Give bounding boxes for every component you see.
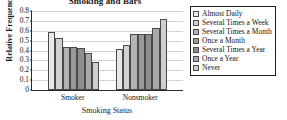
bar [130,34,137,90]
bar [85,53,92,90]
bar [138,34,145,90]
legend-swatch-icon [193,11,199,17]
legend-label: Several Times a Month [202,28,272,36]
bar [145,34,152,90]
legend-item: Several Times a Year [193,45,272,54]
y-tick-label: 0.3 [20,57,32,65]
legend-label: Never [202,64,220,72]
bar [77,48,84,90]
legend-swatch-icon [193,20,199,26]
legend-swatch-icon [193,56,199,62]
x-group-label: Nonsmoker [115,93,167,102]
y-tick-label: 0 [25,86,32,94]
bar [92,62,99,90]
bar [48,32,55,90]
legend-swatch-icon [193,29,199,35]
bar [116,49,123,90]
legend-item: Once a Month [193,36,272,45]
chart-title: Smoking and Bars [30,0,180,6]
plot-area: 00.10.20.30.40.50.60.70.8 [31,11,183,91]
legend-swatch-icon [193,65,199,71]
legend: Almost DailySeveral Times a WeekSeveral … [190,6,276,76]
legend-swatch-icon [193,47,199,53]
legend-item: Several Times a Month [193,27,272,36]
legend-label: Once a Month [202,37,245,45]
bar [123,45,130,90]
legend-item: Several Times a Week [193,18,272,27]
y-tick-label: 0.5 [20,37,32,45]
legend-label: Almost Daily [202,10,243,18]
y-tick-label: 0.6 [20,27,32,35]
y-tick-label: 0.1 [20,76,32,84]
x-axis-title: Smoking Status [31,106,183,115]
legend-item: Once a Year [193,54,272,63]
legend-label: Several Times a Week [202,19,269,27]
y-tick-label: 0.7 [20,17,32,25]
y-tick-label: 0.4 [20,47,32,55]
legend-item: Never [193,64,272,73]
bar [63,47,70,90]
bar [55,38,62,90]
legend-item: Almost Daily [193,9,272,18]
y-tick-label: 0.2 [20,67,32,75]
legend-label: Several Times a Year [202,46,265,54]
y-axis-title: Relative Frequency [5,0,14,69]
chart-figure: Smoking and Bars Relative Frequency 00.1… [0,0,287,120]
bar-series-group [32,11,183,90]
x-group-label: Smoker [47,93,99,102]
legend-swatch-icon [193,38,199,44]
bar [70,47,77,90]
legend-label: Once a Year [202,55,238,63]
bar [160,19,167,90]
y-tick-label: 0.8 [20,7,32,15]
bar [152,28,159,90]
